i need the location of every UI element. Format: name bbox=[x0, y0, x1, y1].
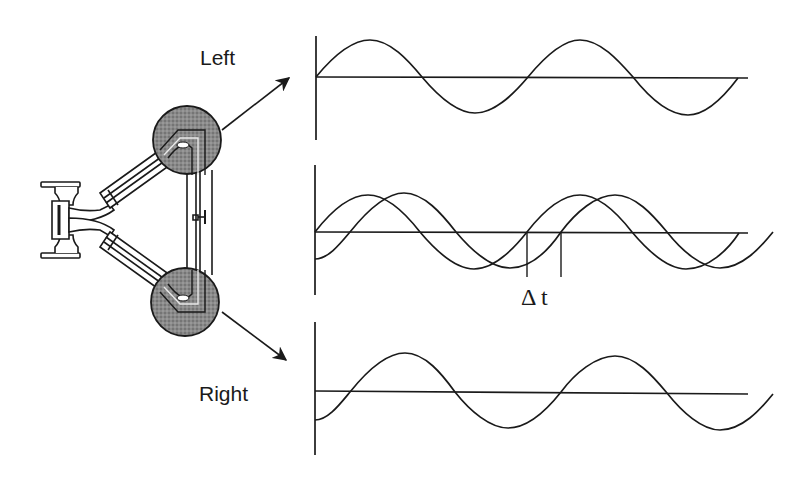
delta-t-label: Δ t bbox=[521, 284, 548, 311]
left-signal-arrow bbox=[222, 78, 289, 130]
coriolis-diagram bbox=[0, 0, 811, 478]
left-signal-panel bbox=[316, 36, 748, 140]
right-label: Right bbox=[199, 382, 248, 406]
left-pickoff bbox=[153, 106, 221, 175]
baseline bbox=[316, 77, 748, 78]
right-signal-arrow bbox=[222, 312, 286, 360]
top-flange bbox=[41, 182, 80, 187]
left-label: Left bbox=[200, 46, 235, 70]
right-signal-wave bbox=[315, 193, 773, 268]
baseline bbox=[315, 391, 748, 394]
bottom-flange bbox=[41, 253, 80, 258]
driver-coil-icon bbox=[193, 210, 205, 224]
vertical-tubes bbox=[187, 170, 212, 275]
right-pickoff bbox=[151, 268, 219, 336]
baseline bbox=[315, 232, 748, 233]
overlay-panel bbox=[315, 165, 773, 295]
right-signal-panel bbox=[315, 322, 773, 455]
